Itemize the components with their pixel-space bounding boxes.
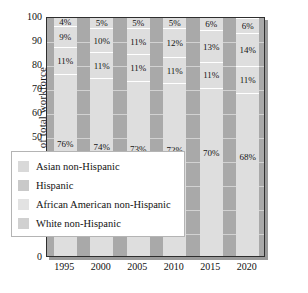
bar-segment: 5% [163, 17, 186, 28]
bar-segment-label: 4% [54, 18, 77, 27]
y-axis-ticks: 0102030405060708090100 [14, 0, 42, 293]
bar-segment: 11% [200, 62, 223, 88]
bar-segment: 14% [236, 33, 259, 67]
y-tick-label: 50 [18, 132, 42, 142]
legend-item: Hispanic [12, 176, 184, 195]
x-tick-label: 2015 [190, 261, 230, 272]
bar-2015: 70%11%13%6% [200, 17, 223, 256]
bar-segment-label: 10% [90, 37, 113, 46]
bar-segment: 11% [236, 66, 259, 92]
bar-segment: 4% [54, 17, 77, 26]
legend-swatch-icon [18, 180, 29, 191]
bar-segment: 6% [236, 18, 259, 32]
legend-item-label: Asian non-Hispanic [36, 161, 120, 172]
bar-segment: 11% [54, 47, 77, 73]
bar-segment-label: 76% [54, 140, 77, 149]
x-tick-label: 2000 [81, 261, 121, 272]
x-tick-label: 2005 [117, 261, 157, 272]
bar-segment: 5% [90, 17, 113, 28]
bar-segment: 5% [127, 17, 150, 28]
x-axis-ticks: 199520002005201020152020 [46, 261, 265, 277]
bar-2020: 68%11%14%6% [236, 17, 259, 256]
legend-item-label: Hispanic [36, 180, 73, 191]
bar-segment-label: 5% [127, 19, 150, 28]
bar-segment-label: 9% [54, 33, 77, 42]
y-tick-label: 60 [18, 108, 42, 118]
bar-segment-label: 11% [127, 38, 150, 47]
gridline [47, 138, 264, 139]
y-tick-label: 80 [18, 60, 42, 70]
legend-item: Asian non-Hispanic [12, 157, 184, 176]
bar-segment-label: 11% [200, 71, 223, 80]
bar-segment: 11% [127, 54, 150, 80]
bar-segment-label: 13% [200, 43, 223, 52]
bar-segment-label: 5% [90, 19, 113, 28]
gridline [47, 114, 264, 115]
chart-figure: Percent of total workforce 0102030405060… [0, 0, 308, 293]
legend-swatch-icon [18, 218, 29, 229]
y-tick-label: 70 [18, 84, 42, 94]
legend: Asian non-HispanicHispanicAfrican Americ… [11, 151, 185, 237]
y-tick-label: 0 [18, 252, 42, 262]
gridline [47, 66, 264, 67]
legend-item-label: African American non-Hispanic [36, 199, 171, 210]
bar-segment-label: 70% [200, 149, 223, 158]
bar-segment-label: 11% [90, 62, 113, 71]
bar-segment-label: 5% [163, 19, 186, 28]
bar-segment: 12% [163, 28, 186, 57]
x-tick-label: 1995 [44, 261, 84, 272]
gridline [47, 42, 264, 43]
bar-segment-label: 6% [236, 22, 259, 31]
bar-segment-label: 14% [236, 46, 259, 55]
bar-segment-label: 11% [163, 67, 186, 76]
bar-segment-label: 11% [236, 76, 259, 85]
bar-segment-label: 12% [163, 39, 186, 48]
bar-segment-label: 68% [236, 153, 259, 162]
bar-segment: 6% [200, 17, 223, 30]
legend-swatch-icon [18, 161, 29, 172]
x-tick-label: 2020 [227, 261, 267, 272]
bar-segment-label: 6% [200, 20, 223, 29]
bar-segment: 11% [163, 57, 186, 83]
legend-item-label: White non-Hispanic [36, 218, 121, 229]
bar-segment: 11% [127, 28, 150, 54]
legend-item: White non-Hispanic [12, 214, 184, 233]
bar-segment: 10% [90, 28, 113, 52]
bar-segment-label: 11% [127, 64, 150, 73]
bar-segment: 11% [90, 52, 113, 78]
x-tick-label: 2010 [154, 261, 194, 272]
legend-item: African American non-Hispanic [12, 195, 184, 214]
y-tick-label: 100 [18, 12, 42, 22]
legend-swatch-icon [18, 199, 29, 210]
bar-segment: 9% [54, 26, 77, 48]
bar-segment: 13% [200, 30, 223, 61]
y-tick-label: 90 [18, 36, 42, 46]
bar-segment: 68% [236, 93, 259, 256]
gridline [47, 90, 264, 91]
bar-segment-label: 11% [54, 57, 77, 66]
bar-segment: 70% [200, 88, 223, 256]
